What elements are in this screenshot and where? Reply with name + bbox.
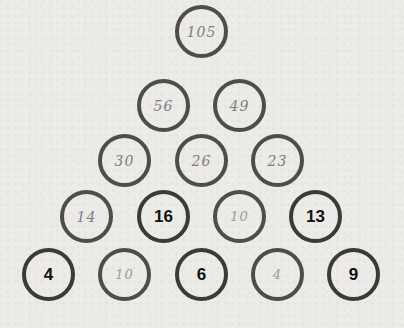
pyramid-cell-r2-c2: 23	[251, 134, 304, 187]
pyramid-cell-r3-c2: 10	[213, 190, 266, 243]
pyramid-cell-r4-c3: 4	[251, 248, 304, 301]
pyramid-cell-r2-c1: 26	[175, 134, 228, 187]
pyramid-cell-r1-c1: 49	[213, 79, 266, 132]
cell-value: 49	[230, 99, 250, 113]
cell-value: 56	[154, 99, 174, 113]
pyramid-cell-r0-c0: 105	[175, 5, 228, 58]
cell-value: 26	[192, 154, 212, 168]
pyramid-cell-r1-c0: 56	[137, 79, 190, 132]
number-pyramid: 105 56 49 30 26 23 14 16 10 13 4 10 6 4 …	[0, 0, 404, 328]
cell-value: 4	[273, 268, 282, 281]
cell-value: 30	[115, 154, 135, 168]
cell-value: 23	[268, 154, 288, 168]
cell-value: 6	[197, 266, 206, 283]
cell-value: 9	[349, 266, 358, 283]
cell-value: 13	[306, 208, 325, 225]
pyramid-cell-r3-c1: 16	[137, 190, 190, 243]
cell-value: 16	[154, 208, 173, 225]
pyramid-cell-r4-c0: 4	[22, 248, 75, 301]
pyramid-cell-r4-c1: 10	[98, 248, 151, 301]
pyramid-cell-r2-c0: 30	[98, 134, 151, 187]
cell-value: 4	[44, 266, 53, 283]
pyramid-cell-r3-c0: 14	[60, 190, 113, 243]
cell-value: 10	[115, 268, 134, 281]
pyramid-cell-r4-c2: 6	[175, 248, 228, 301]
cell-value: 105	[187, 25, 217, 39]
cell-value: 14	[77, 210, 97, 224]
pyramid-cell-r3-c3: 13	[289, 190, 342, 243]
pyramid-cell-r4-c4: 9	[327, 248, 380, 301]
cell-value: 10	[230, 210, 249, 223]
